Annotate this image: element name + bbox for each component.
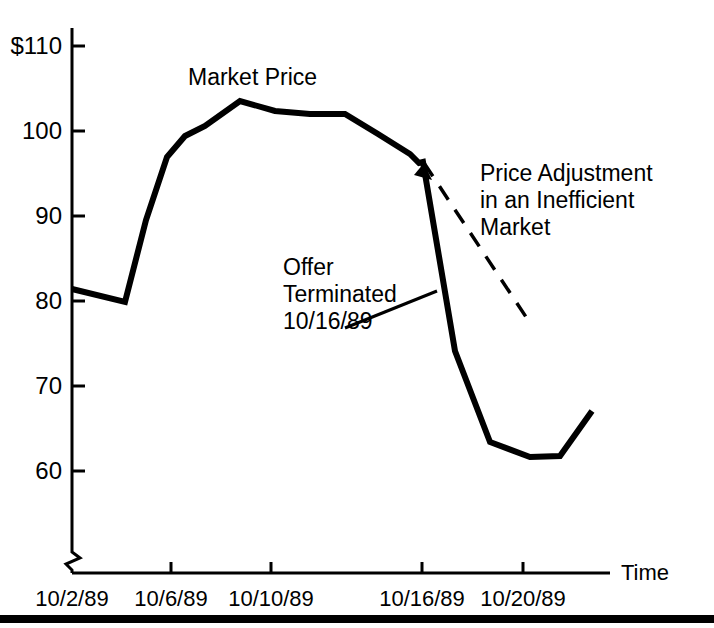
- market-price-label: Market Price: [188, 64, 317, 91]
- x-axis-ticks: [171, 562, 523, 573]
- offer-terminated-line-3: 10/16/89: [283, 308, 397, 335]
- x-axis-title: Time: [621, 560, 669, 586]
- y-axis-break-icon: [66, 548, 80, 573]
- chart-figure: $110 100 90 80 70 60 10/2/89 10/6/89 10/…: [0, 0, 714, 628]
- y-tick-label-110: $110: [0, 32, 62, 60]
- y-tick-label-100: 100: [0, 117, 62, 145]
- offer-terminated-line-1: Offer: [283, 254, 397, 281]
- price-adjustment-line-1: Price Adjustment: [480, 160, 653, 187]
- y-tick-label-90: 90: [0, 202, 62, 230]
- y-tick-label-80: 80: [0, 287, 62, 315]
- x-tick-label-10-20-89: 10/20/89: [458, 586, 588, 612]
- price-adjustment-line-3: Market: [480, 214, 653, 241]
- price-adjustment-callout: Price Adjustment in an Inefficient Marke…: [480, 160, 653, 241]
- x-tick-label-10-10-89: 10/10/89: [206, 586, 336, 612]
- y-axis-ticks: [72, 46, 85, 471]
- price-adjustment-line-2: in an Inefficient: [480, 187, 653, 214]
- y-tick-label-60: 60: [0, 457, 62, 485]
- bottom-rule-divider: [0, 615, 714, 623]
- y-tick-label-70: 70: [0, 372, 62, 400]
- offer-terminated-callout: Offer Terminated 10/16/89: [283, 254, 397, 335]
- offer-terminated-line-2: Terminated: [283, 281, 397, 308]
